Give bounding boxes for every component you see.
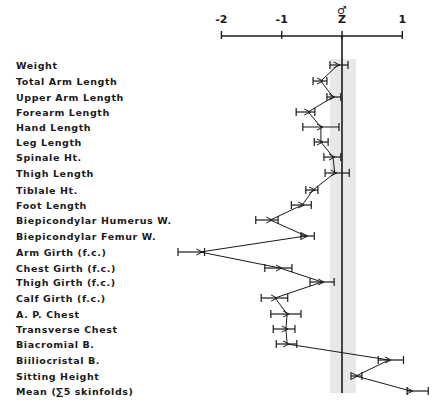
variable-label: Thigh Girth (f.c.) bbox=[16, 277, 116, 288]
variable-label: Calf Girth (f.c.) bbox=[16, 293, 106, 304]
variable-label: Spinale Ht. bbox=[16, 152, 82, 163]
x-tick-label: 1 bbox=[398, 13, 406, 26]
x-tick-label: -2 bbox=[215, 13, 227, 26]
reference-band bbox=[330, 59, 356, 393]
variable-label: Thigh Length bbox=[16, 168, 94, 179]
variable-label: A. P. Chest bbox=[16, 309, 80, 320]
variable-label: Weight bbox=[16, 60, 58, 71]
variable-label: Leg Length bbox=[16, 137, 82, 148]
variable-label: Biacromial B. bbox=[16, 339, 95, 350]
x-tick-label: -1 bbox=[276, 13, 288, 26]
variable-label: Forearm Length bbox=[16, 107, 110, 118]
variable-label: Biepicondylar Humerus W. bbox=[16, 215, 172, 226]
male-symbol-icon: ♂ bbox=[337, 4, 347, 17]
profile-chart: WeightTotal Arm LengthUpper Arm LengthFo… bbox=[0, 0, 446, 404]
variable-label: Arm Girth (f.c.) bbox=[16, 247, 106, 258]
variable-label: Biiliocristal B. bbox=[16, 355, 100, 366]
variable-label: Sitting Height bbox=[16, 371, 99, 382]
variable-label: Mean (∑5 skinfolds) bbox=[16, 386, 134, 397]
variable-label: Biepicondylar Femur W. bbox=[16, 231, 156, 242]
variable-label: Upper Arm Length bbox=[16, 92, 124, 103]
variable-label: Chest Girth (f.c.) bbox=[16, 263, 116, 274]
variable-label: Foot Length bbox=[16, 200, 87, 211]
variable-label: Tiblale Ht. bbox=[16, 185, 78, 196]
variable-label: Total Arm Length bbox=[16, 76, 117, 87]
variable-label: Hand Length bbox=[16, 122, 91, 133]
variable-label: Transverse Chest bbox=[16, 324, 118, 335]
